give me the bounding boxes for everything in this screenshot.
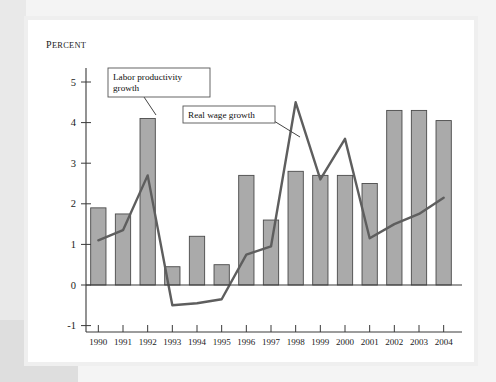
bar-1997: [263, 220, 278, 285]
y-tick-label-0: 0: [71, 280, 76, 291]
screenshot-root: 543210-1 1990199119921993199419951996199…: [0, 0, 496, 382]
x-tick-label-1992: 1992: [139, 337, 157, 347]
annotation-real-wage: Real wage growth: [183, 106, 300, 137]
bar-1996: [239, 175, 254, 285]
x-tick-label-2001: 2001: [361, 337, 379, 347]
annotation-text-real-wage: Real wage growth: [188, 110, 255, 120]
x-tick-label-2002: 2002: [385, 337, 403, 347]
x-tick-label-1993: 1993: [163, 337, 182, 347]
x-tick-label-1990: 1990: [89, 337, 108, 347]
annotation-text2-labor-productivity: growth: [113, 83, 139, 93]
x-tick-label-2003: 2003: [410, 337, 429, 347]
bars-layer: [91, 110, 452, 285]
annotation-leader-labor-productivity: [144, 97, 156, 115]
x-tick-label-1995: 1995: [213, 337, 232, 347]
bar-1990: [91, 208, 106, 285]
y-tick-label-4: 4: [71, 117, 77, 128]
x-tick-label-1999: 1999: [311, 337, 330, 347]
chart-card: 543210-1 1990199119921993199419951996199…: [28, 20, 474, 362]
y-axis-tick-labels: 543210-1: [67, 77, 77, 332]
y-tick-label--1: -1: [67, 320, 76, 331]
bar-1998: [288, 171, 303, 285]
x-tick-label-2000: 2000: [336, 337, 355, 347]
y-axis-unit-label: PERCENT: [46, 39, 86, 50]
bar-2002: [387, 110, 402, 285]
bar-1999: [313, 175, 328, 285]
annotation-leader-real-wage: [274, 121, 300, 137]
x-axis-tick-labels: 1990199119921993199419951996199719981999…: [89, 337, 453, 347]
bar-2004: [436, 121, 451, 285]
y-tick-label-5: 5: [71, 77, 76, 88]
x-tick-label-1996: 1996: [237, 337, 256, 347]
bar-1995: [214, 265, 229, 285]
x-tick-label-2004: 2004: [435, 337, 454, 347]
bar-2003: [411, 110, 426, 285]
bar-1991: [115, 214, 130, 285]
y-tick-label-2: 2: [71, 198, 76, 209]
bar-2000: [337, 175, 352, 285]
x-tick-label-1994: 1994: [188, 337, 207, 347]
y-tick-label-1: 1: [71, 239, 76, 250]
chart-canvas: 543210-1 1990199119921993199419951996199…: [28, 20, 474, 362]
y-tick-label-3: 3: [71, 158, 76, 169]
x-tick-label-1998: 1998: [287, 337, 306, 347]
x-tick-label-1991: 1991: [114, 337, 132, 347]
bar-1994: [189, 236, 204, 285]
annotations-layer: Labor productivitygrowthReal wage growth: [108, 68, 300, 137]
x-tick-label-1997: 1997: [262, 337, 281, 347]
annotation-text-labor-productivity: Labor productivity: [113, 72, 183, 82]
